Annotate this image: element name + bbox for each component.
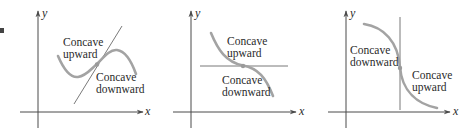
region-label-concave-upward-line2: upward bbox=[227, 47, 262, 60]
panel-3: y x Concave downward Concave upward bbox=[328, 6, 459, 128]
y-axis-label: y bbox=[41, 6, 48, 20]
region-label-concave-upward-line1: Concave bbox=[227, 35, 267, 47]
panel-1: y x Concave upward Concave downward bbox=[20, 6, 151, 128]
region-label-concave-upward-line1: Concave bbox=[63, 36, 103, 48]
figure-canvas: y x Concave upward Concave downward y x … bbox=[0, 0, 466, 134]
panel-2: y x Concave upward Concave downward bbox=[173, 6, 305, 128]
margin-marker-icon bbox=[0, 28, 4, 33]
x-axis-label: x bbox=[144, 104, 151, 118]
y-axis-label: y bbox=[194, 6, 201, 20]
y-axis-label: y bbox=[349, 6, 356, 20]
region-label-concave-downward-line2: downward bbox=[222, 86, 271, 98]
inflection-point bbox=[241, 64, 245, 68]
region-label-concave-upward-line1: Concave bbox=[412, 69, 452, 81]
region-label-concave-downward-line1: Concave bbox=[350, 44, 390, 56]
region-label-concave-downward-line2: downward bbox=[350, 56, 399, 68]
x-axis-label: x bbox=[298, 104, 305, 118]
region-label-concave-downward-line1: Concave bbox=[96, 71, 136, 83]
region-label-concave-upward-line2: upward bbox=[63, 48, 98, 61]
x-axis-label: x bbox=[452, 104, 459, 118]
inflection-point bbox=[95, 62, 99, 66]
region-label-concave-downward-line2: downward bbox=[96, 83, 145, 95]
inflection-points-figure: y x Concave upward Concave downward y x … bbox=[0, 0, 466, 134]
region-label-concave-downward-line1: Concave bbox=[222, 74, 262, 86]
region-label-concave-upward-line2: upward bbox=[412, 81, 447, 94]
